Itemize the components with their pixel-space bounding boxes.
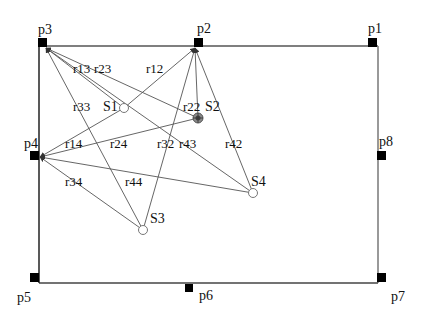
source-S2-target-icon [193, 113, 203, 123]
ray-r42 [195, 48, 253, 193]
source-label-S4: S4 [251, 174, 266, 189]
receiver-label-p8: p8 [379, 134, 393, 149]
receiver-marker-p2 [194, 38, 203, 47]
receiver-marker-p3 [38, 38, 47, 47]
source-labels: S1 S2 S3 S4 [103, 99, 266, 226]
source-S3-open-circle-icon [139, 226, 148, 235]
receiver-label-p3: p3 [38, 22, 52, 37]
source-label-S3: S3 [150, 211, 165, 226]
ray-label-r43: r43 [179, 136, 196, 151]
receiver-marker-p6 [185, 284, 193, 292]
receiver-marker-p8 [377, 151, 386, 160]
source-S4-open-circle-icon [249, 189, 258, 198]
receiver-marker-p7 [377, 273, 386, 282]
ray-label-r42: r42 [225, 136, 242, 151]
ray-label-r24: r24 [110, 136, 128, 151]
receiver-label-p5: p5 [17, 290, 31, 305]
ray-r34 [40, 157, 143, 230]
receiver-label-p6: p6 [199, 288, 213, 303]
receiver-marker-p1 [368, 38, 377, 47]
source-receiver-diagram: p3 p2 p1 p4 p8 p5 p6 p7 r13 r23 r12 r33 … [0, 0, 425, 319]
ray-label-r14: r14 [65, 136, 83, 151]
ray-label-r13: r13 [73, 61, 90, 76]
source-S1-open-circle-icon [120, 104, 129, 113]
receiver-marker-p5 [30, 273, 39, 282]
receiver-marker-p4 [30, 151, 39, 160]
receiver-label-p4: p4 [24, 136, 38, 151]
source-label-S2: S2 [205, 99, 220, 114]
ray-label-r34: r34 [65, 174, 83, 189]
ray-label-r32: r32 [157, 136, 174, 151]
receiver-label-p7: p7 [391, 289, 405, 304]
receiver-label-p1: p1 [368, 21, 382, 36]
ray-label-r22: r22 [183, 99, 200, 114]
ray-label-r33: r33 [73, 99, 90, 114]
receivers [30, 38, 386, 292]
ray-label-r23: r23 [94, 61, 111, 76]
receiver-label-p2: p2 [197, 21, 211, 36]
source-label-S1: S1 [103, 99, 118, 114]
ray-label-r12: r12 [146, 61, 163, 76]
sources [120, 104, 258, 235]
ray-label-r44: r44 [125, 174, 143, 189]
